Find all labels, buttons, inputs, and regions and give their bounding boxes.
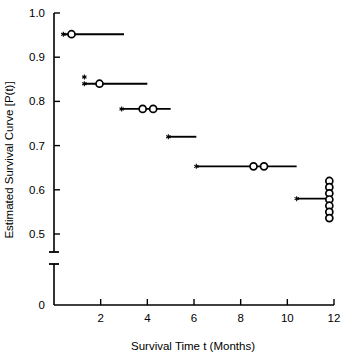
event-marker-circle (68, 31, 75, 38)
chart-background (0, 0, 354, 355)
y-axis-title: Estimated Survival Curve [P(t)] (3, 81, 15, 238)
chart-canvas: 0.50.60.70.80.91.0024681012 Survival Tim… (0, 0, 354, 355)
event-marker-circle (261, 163, 268, 170)
x-axis-tick-label: 2 (97, 312, 103, 324)
x-axis-tick-label: 10 (281, 312, 294, 324)
x-axis-tick-label: 4 (144, 312, 151, 324)
y-axis-tick-label: 0.7 (29, 140, 45, 152)
x-axis-tick-label: 8 (237, 312, 243, 324)
event-marker-circle (150, 105, 157, 112)
event-marker-circle (96, 80, 103, 87)
event-marker-circle (250, 163, 257, 170)
survival-curve-chart: 0.50.60.70.80.91.0024681012 Survival Tim… (0, 0, 354, 355)
y-axis-tick-label: 0.8 (29, 95, 45, 107)
event-marker-circle (326, 215, 333, 222)
y-axis-tick-label: 1.0 (29, 7, 45, 19)
x-axis-title: Survival Time t (Months) (131, 340, 255, 352)
x-axis-tick-label: 12 (328, 312, 341, 324)
event-marker-circle (139, 105, 146, 112)
y-axis-tick-label: 0.9 (29, 51, 45, 63)
x-axis-tick-label: 6 (191, 312, 197, 324)
y-axis-tick-label: 0.6 (29, 184, 45, 196)
y-axis-zero-label: 0 (39, 299, 45, 311)
y-axis-tick-label: 0.5 (29, 228, 45, 240)
